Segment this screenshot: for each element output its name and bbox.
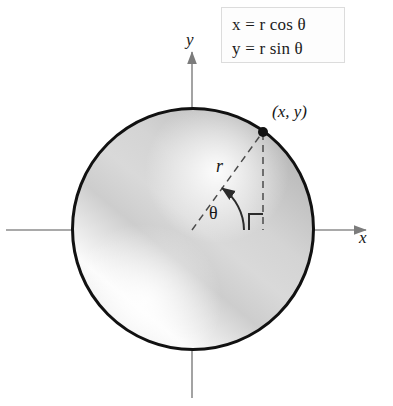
x-axis-label: x — [359, 229, 367, 246]
y-axis-label: y — [186, 31, 194, 48]
point-marker — [258, 127, 268, 137]
formula-box: x = r cos θ y = r sin θ — [221, 7, 345, 63]
polar-coordinates-figure: x = r cos θ y = r sin θ y x (x, y) r θ — [0, 0, 393, 406]
radius-label: r — [216, 157, 223, 175]
formula-line-x: x = r cos θ — [232, 13, 344, 37]
formula-line-y: y = r sin θ — [232, 37, 344, 61]
point-label: (x, y) — [272, 103, 307, 120]
angle-label: θ — [209, 204, 218, 222]
